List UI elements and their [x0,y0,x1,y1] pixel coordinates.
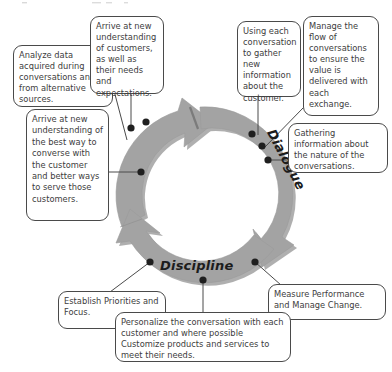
callout-arrive-best-way[interactable]: Arrive at new understanding of the best … [26,109,109,221]
callout-personalize[interactable]: Personalize the conversation with each c… [115,312,291,362]
callout-arrive-customers[interactable]: Arrive at new understanding of customers… [90,16,164,94]
anchor-dot [142,118,149,125]
anchor-dot [146,258,153,265]
anchor-dot [248,130,255,137]
anchor-dot [127,124,134,131]
diagram-canvas: Discovery Dialogue Discipline [0,0,392,372]
phase-label-discipline: Discipline [160,258,233,273]
anchor-dot [264,156,271,163]
callout-manage-flow[interactable]: Manage the flow of conversations to ensu… [303,16,379,116]
anchor-dot [137,168,144,175]
callout-using-each-conversation[interactable]: Using each conversation to gather new in… [237,21,301,97]
callout-gathering-information[interactable]: Gathering information about the nature o… [288,123,388,173]
anchor-dot [251,258,258,265]
scan-artifact [0,0,392,9]
anchor-dot [258,142,265,149]
anchor-dot [199,276,206,283]
